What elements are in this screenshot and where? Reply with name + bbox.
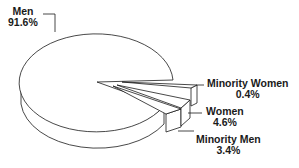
label-minority-men-value: 3.4% [196,145,261,156]
leader-men [43,14,55,32]
label-men-value: 91.6% [8,17,38,28]
slice-minority-women [122,82,197,88]
label-minority-women-value: 0.4% [207,89,288,100]
label-women: Women 4.6% [206,106,244,128]
slice-minority-women-side [191,85,197,106]
label-minority-men: Minority Men 3.4% [196,134,261,156]
label-women-value: 4.6% [206,117,244,128]
label-men: Men 91.6% [8,6,38,28]
label-minority-women: Minority Women 0.4% [207,78,288,100]
